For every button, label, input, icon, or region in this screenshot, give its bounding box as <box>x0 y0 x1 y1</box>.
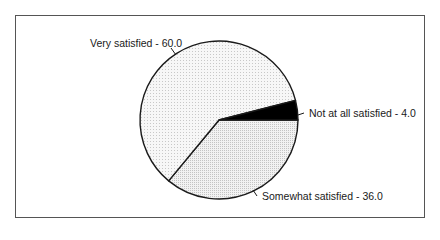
leader-line-not-at-all-satisfied <box>298 113 304 115</box>
label-somewhat-satisfied: Somewhat satisfied - 36.0 <box>262 190 383 202</box>
label-not-at-all-satisfied: Not at all satisfied - 4.0 <box>309 107 416 119</box>
label-very-satisfied: Very satisfied - 60.0 <box>90 37 182 49</box>
leader-line-very-satisfied <box>171 48 176 55</box>
